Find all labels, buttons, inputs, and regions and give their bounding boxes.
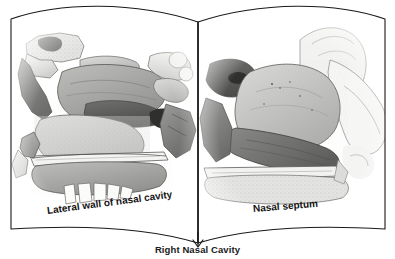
- figure-caption: Right Nasal Cavity: [0, 244, 395, 255]
- figure-canvas: Lateral wall of nasal cavity Nasal septu…: [0, 0, 395, 259]
- nasal-septum-illustration: [198, 0, 388, 259]
- lateral-wall-of-nasal-cavity-illustration: [11, 0, 201, 259]
- open-book-illustration: [0, 0, 395, 259]
